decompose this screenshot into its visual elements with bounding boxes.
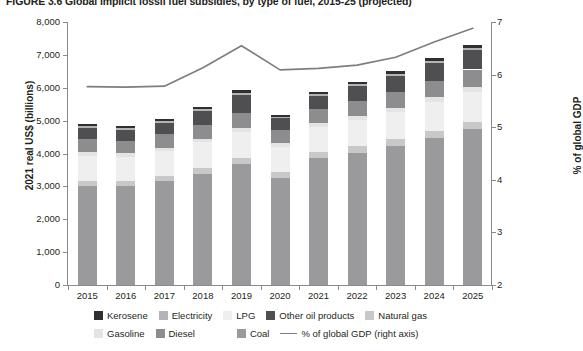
gdp-line-layer [68,22,492,285]
y-axis-left-tick-label: 6,000 [14,83,60,92]
y-axis-left-tick-label: 4,000 [14,149,60,158]
y-axis-left-title: 2021 real US$ (billions) [24,11,35,261]
legend-label: Gasoline [107,328,145,339]
y-axis-left-tick [63,154,67,155]
y-axis-right-tick-label: 3 [497,227,517,236]
y-axis-left-tick [63,285,67,286]
legend-label: Other oil products [279,310,354,321]
y-axis-left-tick [63,121,67,122]
y-axis-right-tick-label: 4 [497,175,517,184]
legend-label: Coal [250,328,270,339]
legend-item[interactable]: Kerosene [94,310,148,321]
legend-item[interactable]: Electricity [159,310,213,321]
legend-item[interactable]: LPG [223,310,255,321]
legend-item[interactable]: Gasoline [94,328,145,339]
y-axis-left-tick-label: 5,000 [14,116,60,125]
y-axis-left-tick-label: 3,000 [14,181,60,190]
legend-row-1: KeroseneElectricityLPGOther oil products… [60,307,564,323]
gdp-line [87,28,472,87]
legend-swatch-icon [156,329,165,338]
legend-item[interactable]: Other oil products [266,310,354,321]
y-axis-right-tick-label: 6 [497,70,517,79]
legend-swatch-icon [223,311,232,320]
figure-title: FIGURE 3.6 Global implicit fossil fuel s… [6,0,412,7]
y-axis-left-tick [63,22,67,23]
legend-swatch-icon [159,311,168,320]
legend-swatch-icon [237,329,246,338]
chart-legend: KeroseneElectricityLPGOther oil products… [60,306,530,346]
y-axis-left-tick [63,186,67,187]
y-axis-left-tick-label: 7,000 [14,50,60,59]
y-axis-left-tick-label: 0 [14,280,60,289]
legend-swatch-icon [94,329,103,338]
y-axis-left-tick [63,88,67,89]
y-axis-right-tick [492,75,496,76]
x-axis-spine [67,285,492,286]
legend-swatch-icon [94,311,103,320]
legend-line-icon [280,333,297,334]
legend-label: % of global GDP (right axis) [301,328,418,339]
x-axis-tick-label: 2025 [450,290,496,301]
y-axis-right-tick [492,232,496,233]
legend-label: Diesel [169,328,195,339]
y-axis-left-tick [63,55,67,56]
y-axis-right-tick [492,180,496,181]
legend-swatch-icon [266,311,275,320]
legend-item[interactable]: Natural gas [365,310,427,321]
y-axis-right-tick-label: 5 [497,122,517,131]
y-axis-left-tick-label: 2,000 [14,214,60,223]
figure-title-strip: FIGURE 3.6 Global implicit fossil fuel s… [0,0,547,9]
legend-label: Kerosene [107,310,148,321]
legend-label: LPG [236,310,255,321]
y-axis-right-tick-label: 2 [497,280,517,289]
y-axis-right-tick-label: 7 [497,17,517,26]
legend-label: Electricity [172,310,213,321]
legend-item[interactable]: Coal [237,328,270,339]
y-axis-right-tick [492,127,496,128]
y-axis-left-tick-label: 8,000 [14,17,60,26]
legend-row-2: GasolineDieselCoal% of global GDP (right… [60,325,564,341]
legend-item-gdp-line[interactable]: % of global GDP (right axis) [280,328,418,339]
y-axis-left-tick-label: 1,000 [14,247,60,256]
y-axis-right-title: % of global GDP [572,11,583,261]
y-axis-left-tick [63,219,67,220]
y-axis-right-tick [492,22,496,23]
legend-label: Natural gas [378,310,427,321]
legend-item[interactable]: Diesel [156,328,195,339]
y-axis-left-tick [63,252,67,253]
plot-area [68,22,492,285]
legend-swatch-icon [365,311,374,320]
